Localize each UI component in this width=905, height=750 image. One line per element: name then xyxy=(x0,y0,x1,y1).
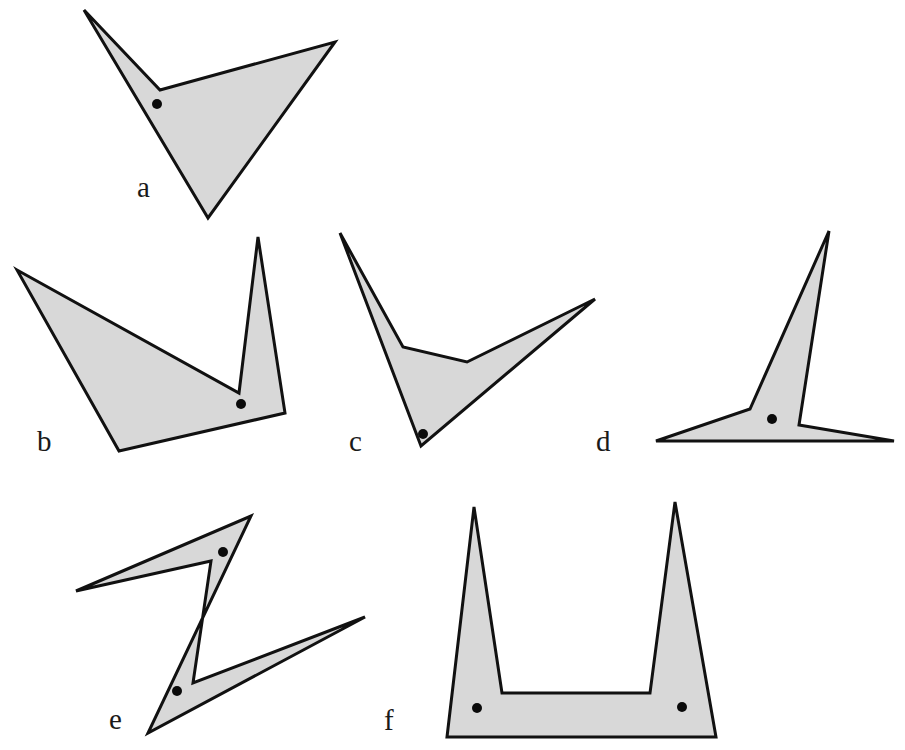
guard-dot-icon xyxy=(218,547,228,557)
guard-dot-icon xyxy=(418,429,428,439)
polygon-c xyxy=(340,233,595,446)
shape-label-e: e xyxy=(109,703,122,735)
shape-b: b xyxy=(17,237,285,457)
shape-e: e xyxy=(76,516,365,735)
guard-dot-icon xyxy=(472,703,482,713)
polygon-b xyxy=(17,237,285,451)
guard-dot-icon xyxy=(236,399,246,409)
polygon-f xyxy=(447,502,716,737)
guard-dot-icon xyxy=(172,686,182,696)
shape-f: f xyxy=(384,502,716,737)
shape-c: c xyxy=(340,233,595,457)
polygon-d xyxy=(656,231,894,441)
shape-label-b: b xyxy=(37,425,52,457)
shape-label-d: d xyxy=(596,425,611,457)
shape-d: d xyxy=(596,231,894,457)
guard-dot-icon xyxy=(677,702,687,712)
guard-dot-icon xyxy=(767,414,777,424)
guard-dot-icon xyxy=(152,99,162,109)
polygon-figure: abcdef xyxy=(0,0,905,750)
shape-label-c: c xyxy=(349,425,362,457)
shapes-layer: abcdef xyxy=(17,10,894,737)
shape-label-f: f xyxy=(384,704,394,736)
shape-label-a: a xyxy=(137,171,150,203)
shape-a: a xyxy=(84,10,335,218)
polygon-a xyxy=(84,10,335,218)
